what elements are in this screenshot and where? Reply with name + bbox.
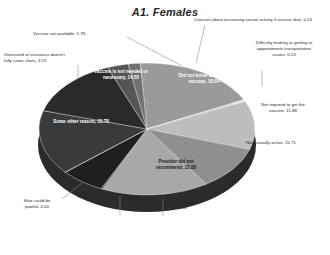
- slice-label-safety-concerns: Safety concerns, 6.66: [80, 214, 156, 220]
- slice-label-uninsured: Uninsured or insurance doesn't fully cov…: [4, 52, 112, 64]
- slice-label-provider-not-recommend: Provider did not recommend, 15.88: [134, 159, 218, 171]
- slice-label-shot-painful: Shot could be painful, 0.00: [6, 198, 68, 210]
- leader-line-concern: [196, 25, 205, 63]
- slice-label-vaccine-not-available: Vaccine not available, 1.78: [33, 31, 143, 37]
- slice-label-concern: Concern about increasing sexual activity…: [176, 17, 330, 23]
- slice-label-did-not-know: Did not know about the vaccine, 18.64: [168, 73, 240, 85]
- slice-label-difficulty: Difficulty making or getting to appointm…: [238, 40, 330, 58]
- slice-label-some-other-reason: Some other reason, 15.78: [34, 119, 128, 125]
- slice-label-not-required: Not required to get the vaccine, 11.88: [243, 102, 323, 114]
- slice-label-not-needed: Vaccine is not needed or necessary, 14.5…: [78, 69, 164, 81]
- slice-label-vaccinate-later: Provider indicated could vaccinate later…: [128, 199, 206, 211]
- slice-label-not-sexually-active: Not sexually active, 10.71: [246, 140, 330, 146]
- chart-canvas: A1. Females Concern about increasing sex…: [0, 0, 330, 255]
